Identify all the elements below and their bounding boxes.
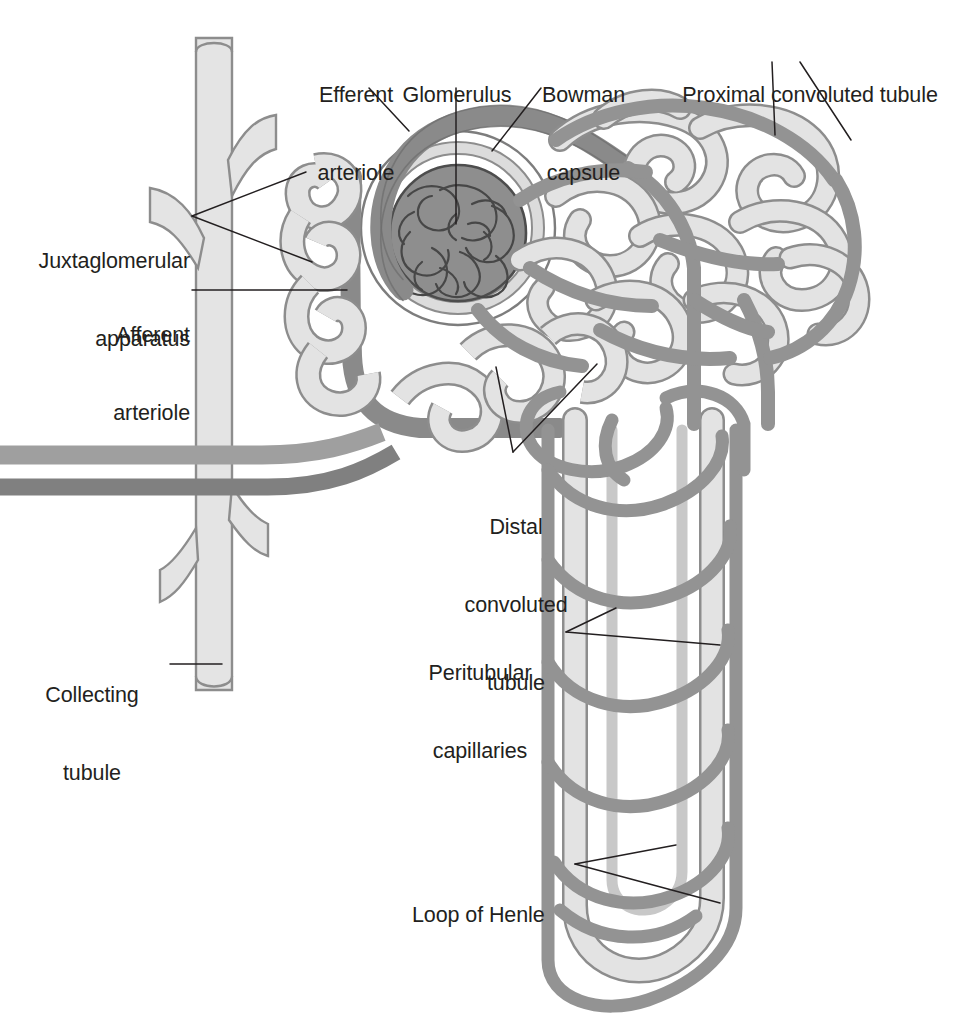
label-efferent-arteriole-line-2: arteriole [302,160,410,186]
label-collecting-tubule-line-2: tubule [22,760,162,786]
label-peritubular-capillaries-line-2: capillaries [404,738,556,764]
collecting-tubule-bottom-cap [196,676,232,687]
collecting-tubule-branch-lower-right [229,486,268,556]
label-glomerulus: Glomerulus [396,30,518,160]
label-loop-of-henle-line-1: Loop of Henle [412,902,567,928]
leader-peritubular-lower [566,632,720,645]
collecting-tubule-trunk [196,38,232,690]
label-proximal-convoluted-tubule-line-1: Proximal convoluted tubule [673,82,947,108]
label-proximal-convoluted-tubule: Proximal convoluted tubule [673,30,947,160]
label-efferent-arteriole-line-1: Efferent [302,82,410,108]
label-afferent-arteriole-line-2: arteriole [20,400,190,426]
label-efferent-arteriole: Efferent arteriole [302,30,410,238]
label-peritubular-capillaries-line-1: Peritubular [404,660,556,686]
label-bowman-capsule: Bowman capsule [533,30,634,238]
nephron-diagram: Efferent arteriole Glomerulus Bowman cap… [0,0,959,1017]
label-peritubular-capillaries: Peritubular capillaries [404,608,556,816]
collecting-tubule-branch-lower-left [160,528,198,602]
label-afferent-arteriole: Afferent arteriole [20,270,190,478]
label-collecting-tubule: Collecting tubule [22,630,162,838]
leader-loop-upper [575,845,676,864]
label-loop-of-henle: Loop of Henle [412,850,567,980]
collecting-tubule-branch-upper-right [228,115,276,196]
label-afferent-arteriole-line-1: Afferent [20,322,190,348]
label-glomerulus-line-1: Glomerulus [396,82,518,108]
label-bowman-capsule-line-1: Bowman [533,82,634,108]
label-collecting-tubule-line-1: Collecting [22,682,162,708]
label-distal-convoluted-tubule-line-1: Distal [451,514,581,540]
label-bowman-capsule-line-2: capsule [533,160,634,186]
